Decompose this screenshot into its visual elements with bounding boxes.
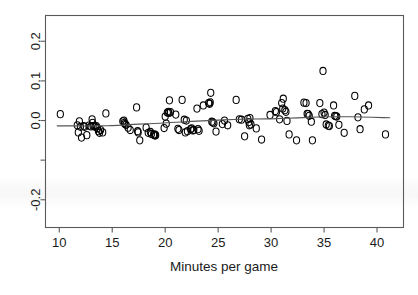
x-tick-label: 25 — [211, 235, 225, 250]
x-tick-label: 10 — [52, 235, 66, 250]
x-tick-label: 30 — [264, 235, 278, 250]
scatter-plot-figure: 0.20.10.0-0.2 10152025303540 Minutes per… — [0, 0, 418, 295]
y-tick-label: -0.2 — [28, 189, 43, 211]
y-tick-label: 0.1 — [28, 72, 43, 90]
x-tick-label: 40 — [370, 235, 384, 250]
x-tick-label: 20 — [158, 235, 172, 250]
x-tick-label: 15 — [105, 235, 119, 250]
x-axis-title: Minutes per game — [170, 259, 278, 274]
figure-background — [0, 0, 418, 295]
plot-canvas: 0.20.10.0-0.2 10152025303540 Minutes per… — [0, 0, 418, 295]
y-tick-label: 0.0 — [28, 111, 43, 129]
y-tick-label: 0.2 — [28, 32, 43, 50]
x-tick-label: 35 — [317, 235, 331, 250]
